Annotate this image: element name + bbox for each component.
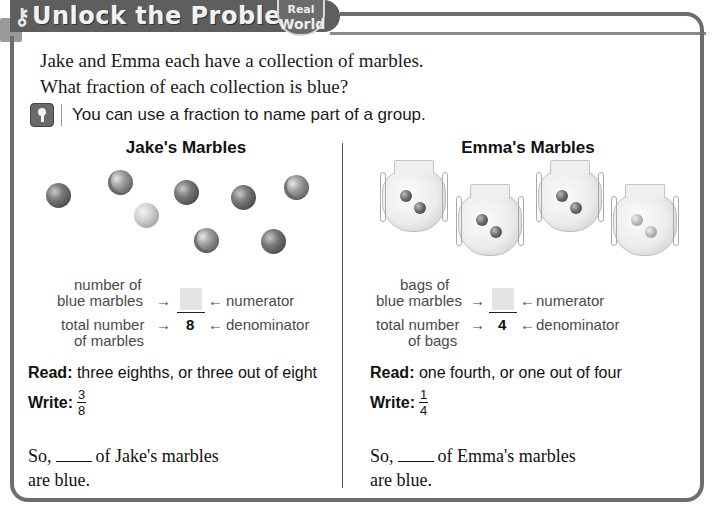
marble-icon	[46, 183, 71, 208]
marble-icon	[108, 170, 133, 195]
emma-so-suffix: of Emma's marbles	[438, 446, 576, 466]
jake-den-label-2: of marbles	[74, 332, 144, 349]
jake-answer-blank[interactable]	[56, 447, 92, 462]
arrow-right-icon: →	[470, 316, 485, 333]
jake-column: Jake's Marbles number of blue marbles → …	[26, 138, 346, 158]
badge-line-1: Real	[279, 4, 323, 16]
emma-read: Read: one fourth, or one out of four	[370, 364, 622, 382]
problem-line-2: What fraction of each collection is blue…	[40, 74, 424, 100]
jake-write-fraction: 3 8	[77, 388, 86, 417]
marble-bag-icon	[382, 160, 446, 232]
jake-num-label-1: number of	[74, 276, 142, 293]
emma-bags-illustration	[368, 138, 688, 268]
arrow-left-icon: ←	[208, 292, 223, 309]
jake-denominator-term: denominator	[226, 316, 309, 333]
jake-so-line-2: are blue.	[28, 468, 219, 492]
write-label: Write:	[370, 394, 415, 412]
jake-read: Read: three eighths, or three out of eig…	[28, 364, 317, 382]
arrow-left-icon: ←	[520, 316, 535, 333]
emma-den-label-2: of bags	[408, 332, 457, 349]
emma-so-line-2: are blue.	[370, 468, 576, 492]
badge-line-2: World	[279, 18, 323, 30]
write-label: Write:	[28, 394, 73, 412]
marble-icon	[194, 228, 219, 253]
jake-marbles-illustration	[26, 138, 346, 268]
emma-numerator-answer-box[interactable]	[492, 288, 514, 310]
jake-numerator-term: numerator	[226, 292, 294, 309]
jake-read-text: three eighths, or three out of eight	[72, 364, 317, 381]
emma-write-fraction: 1 4	[419, 388, 428, 417]
emma-num-label-1: bags of	[400, 276, 449, 293]
emma-column: Emma's Marbles bags of blue marbles → ← …	[368, 138, 688, 158]
hint-bracket	[56, 104, 62, 126]
emma-conclusion: So,of Emma's marbles are blue.	[370, 444, 576, 492]
so-prefix: So,	[370, 446, 394, 466]
arrow-right-icon: →	[156, 292, 171, 309]
emma-numerator-term: numerator	[536, 292, 604, 309]
marble-icon	[231, 185, 256, 210]
emma-denominator-term: denominator	[536, 316, 619, 333]
hint-text: You can use a fraction to name part of a…	[72, 105, 426, 125]
marble-icon	[284, 175, 309, 200]
jake-numerator-answer-box[interactable]	[180, 288, 202, 310]
fraction-denominator: 4	[420, 404, 427, 417]
read-label: Read:	[370, 364, 414, 381]
problem-statement: Jake and Emma each have a collection of …	[40, 48, 424, 100]
so-prefix: So,	[28, 446, 52, 466]
read-label: Read:	[28, 364, 72, 381]
marble-bag-icon	[538, 160, 602, 232]
fraction-numerator: 1	[420, 388, 427, 401]
marble-icon	[134, 203, 159, 228]
emma-answer-blank[interactable]	[398, 447, 434, 462]
arrow-left-icon: ←	[208, 316, 223, 333]
section-title: Unlock the Problem	[32, 1, 307, 31]
emma-den-label-1: total number	[376, 316, 459, 333]
real-world-badge: Real World	[277, 0, 325, 36]
jake-num-label-2: blue marbles	[57, 292, 143, 309]
jake-write: Write: 3 8	[28, 388, 86, 417]
emma-num-label-2: blue marbles	[376, 292, 462, 309]
emma-write: Write: 1 4	[370, 388, 428, 417]
fraction-bar	[489, 312, 517, 313]
emma-denominator-value: 4	[498, 316, 506, 333]
marble-bag-icon	[613, 184, 677, 256]
emma-read-text: one fourth, or one out of four	[414, 364, 621, 381]
emma-fraction-diagram: bags of blue marbles → ← numerator total…	[368, 276, 688, 348]
fraction-bar	[177, 312, 205, 313]
problem-line-1: Jake and Emma each have a collection of …	[40, 48, 424, 74]
jake-denominator-value: 8	[186, 316, 194, 333]
keyhole-icon	[30, 103, 54, 127]
jake-den-label-1: total number	[61, 316, 144, 333]
marble-icon	[174, 180, 199, 205]
marble-icon	[261, 229, 286, 254]
marble-bag-icon	[458, 184, 522, 256]
fraction-denominator: 8	[78, 404, 85, 417]
arrow-right-icon: →	[470, 292, 485, 309]
jake-so-suffix: of Jake's marbles	[96, 446, 219, 466]
arrow-left-icon: ←	[520, 292, 535, 309]
jake-fraction-diagram: number of blue marbles → ← numerator tot…	[26, 276, 346, 348]
jake-conclusion: So,of Jake's marbles are blue.	[28, 444, 219, 492]
fraction-numerator: 3	[78, 388, 85, 401]
arrow-right-icon: →	[156, 316, 171, 333]
hint-callout: You can use a fraction to name part of a…	[30, 103, 426, 127]
